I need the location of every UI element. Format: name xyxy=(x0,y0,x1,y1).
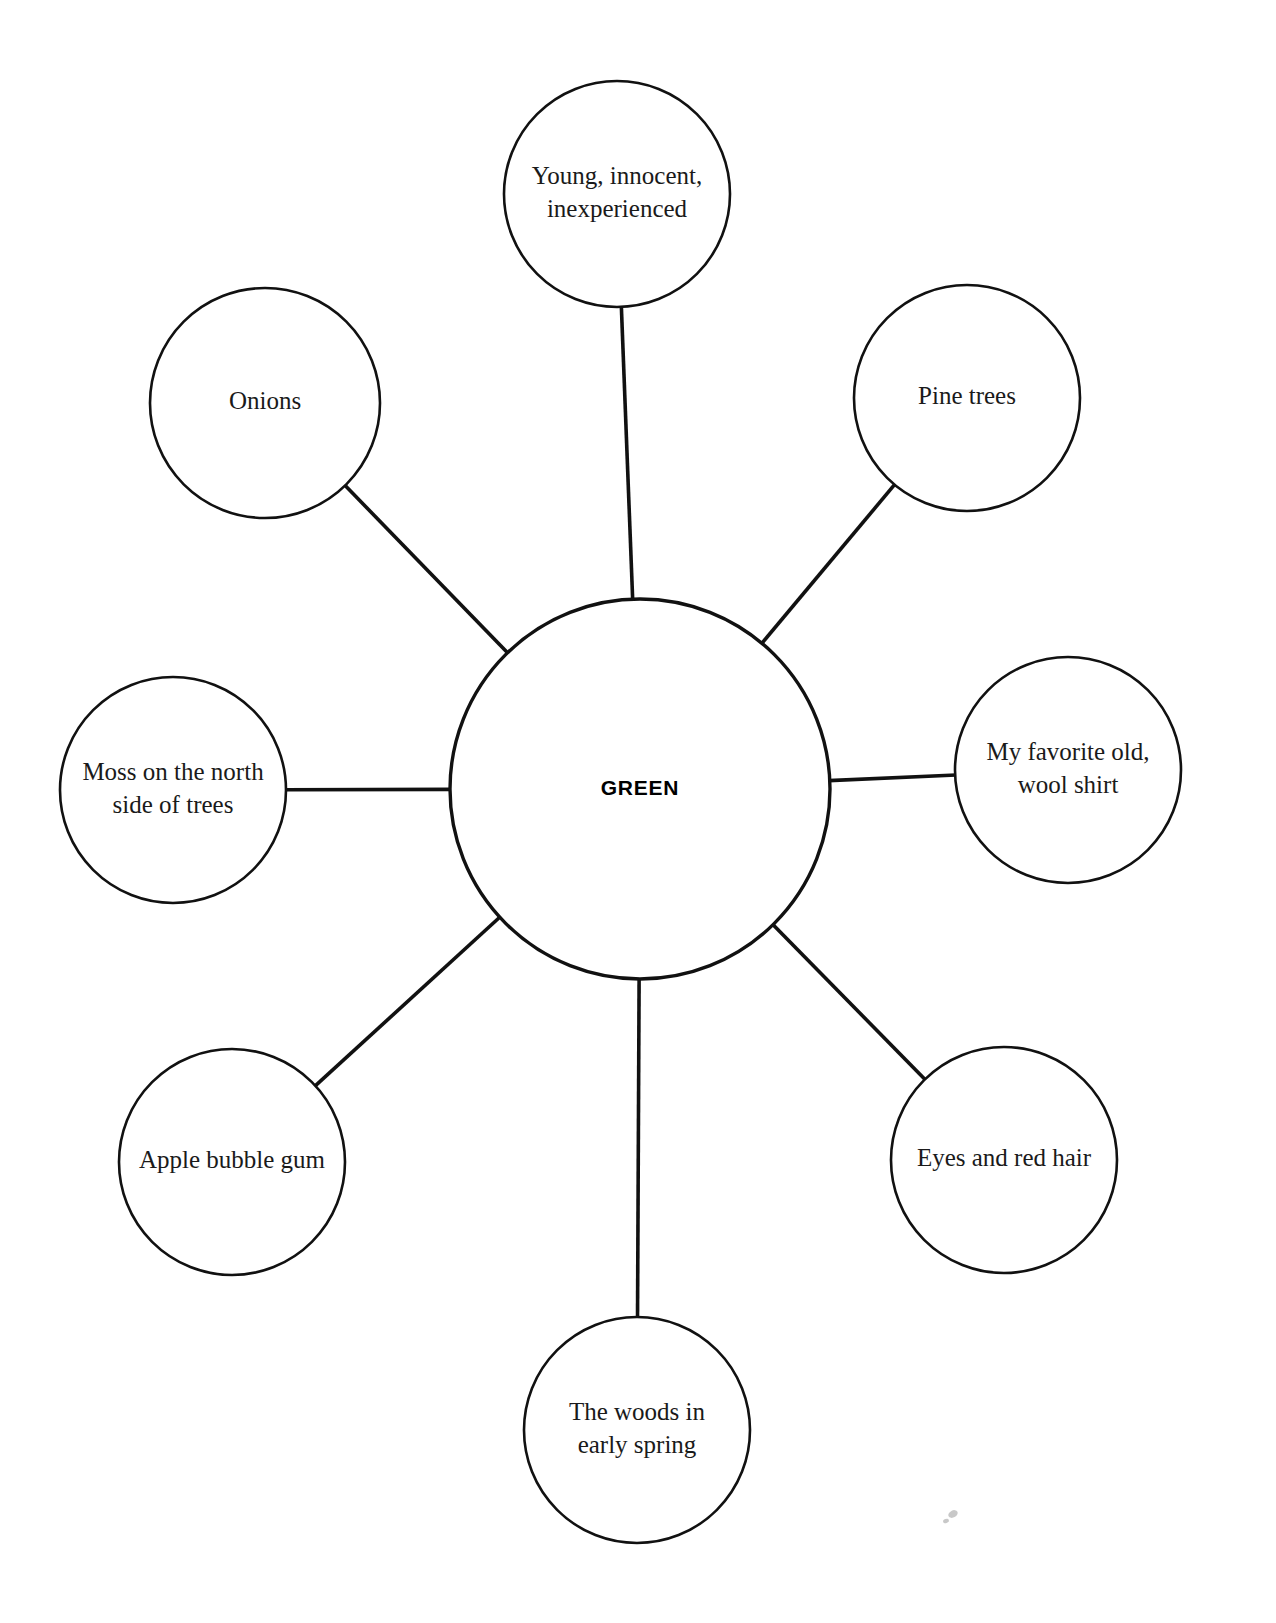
node-label-line: Onions xyxy=(229,387,301,414)
speck-mark xyxy=(942,1518,949,1524)
node-label-line: Pine trees xyxy=(918,382,1016,409)
node-label-southeast: Eyes and red hair xyxy=(917,1144,1092,1171)
node-northeast[interactable]: Pine trees xyxy=(854,285,1080,511)
paper-specks xyxy=(942,1509,959,1524)
node-southwest[interactable]: Apple bubble gum xyxy=(119,1049,345,1275)
node-west[interactable]: Moss on the northside of trees xyxy=(60,677,286,903)
spoke-east xyxy=(829,775,956,781)
node-label-line: wool shirt xyxy=(1018,770,1119,797)
spoke-northwest xyxy=(344,485,508,654)
node-label-line: The woods in xyxy=(569,1397,706,1424)
node-east[interactable]: My favorite old,wool shirt xyxy=(955,657,1181,883)
node-label-northwest: Onions xyxy=(229,387,301,414)
node-label-northeast: Pine trees xyxy=(918,382,1016,409)
center-node[interactable]: GREEN xyxy=(450,599,830,979)
node-label-line: Apple bubble gum xyxy=(139,1146,326,1173)
node-south[interactable]: The woods inearly spring xyxy=(524,1317,750,1543)
node-label-line: Young, innocent, xyxy=(532,161,702,188)
speck-mark xyxy=(947,1509,959,1520)
node-label-line: Moss on the north xyxy=(82,757,264,784)
spoke-north xyxy=(621,306,632,600)
node-north[interactable]: Young, innocent,inexperienced xyxy=(504,81,730,307)
spoke-northeast xyxy=(761,484,895,644)
nodes-layer: GREENYoung, innocent,inexperiencedOnions… xyxy=(60,81,1181,1543)
node-southeast[interactable]: Eyes and red hair xyxy=(891,1047,1117,1273)
node-northwest[interactable]: Onions xyxy=(150,288,380,518)
diagram-canvas: GREENYoung, innocent,inexperiencedOnions… xyxy=(0,0,1276,1623)
center-node-label: GREEN xyxy=(601,776,680,799)
node-label-line: side of trees xyxy=(113,790,234,817)
spoke-southwest xyxy=(315,917,501,1087)
node-label-line: early spring xyxy=(578,1430,697,1457)
spoke-south xyxy=(638,978,640,1318)
spoke-southeast xyxy=(772,924,925,1080)
node-label-line: Eyes and red hair xyxy=(917,1144,1092,1171)
word-web-diagram: GREENYoung, innocent,inexperiencedOnions… xyxy=(0,0,1276,1623)
node-label-southwest: Apple bubble gum xyxy=(139,1146,326,1173)
node-label-line: My favorite old, xyxy=(986,737,1149,764)
node-label-line: inexperienced xyxy=(547,194,688,221)
